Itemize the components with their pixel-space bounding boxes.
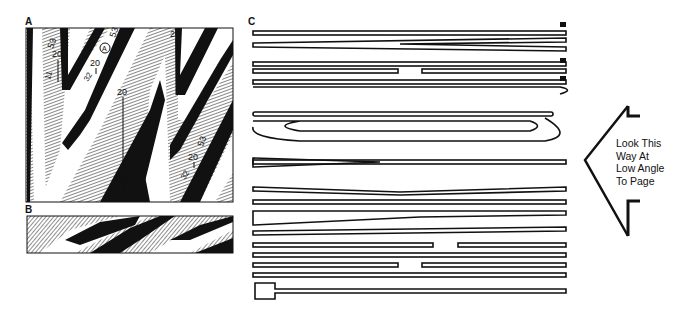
- svg-text:20: 20: [90, 58, 100, 68]
- svg-text:A: A: [102, 45, 107, 52]
- svg-text:20: 20: [188, 152, 198, 162]
- svg-text:20: 20: [170, 29, 180, 39]
- figure-canvas: 53 20 11 20 32 A 53 20 20 20 32 53: [0, 0, 685, 309]
- caption-line: Look This: [616, 137, 664, 150]
- caption-line: Low Angle: [616, 162, 664, 175]
- panel-b-label: B: [25, 204, 32, 215]
- panel-a-label: A: [25, 16, 32, 27]
- svg-text:20: 20: [117, 87, 127, 97]
- panel-c-label: C: [248, 16, 255, 27]
- panel-b-section: [27, 216, 233, 253]
- svg-text:20: 20: [52, 49, 62, 59]
- view-instruction-caption: Look This Way At Low Angle To Page: [616, 137, 664, 187]
- caption-line: Way At: [616, 150, 664, 163]
- panel-c-bars: [253, 31, 568, 299]
- chevron-top-hook-icon: [628, 106, 640, 116]
- chevron-bottom-hook-icon: [628, 201, 640, 236]
- caption-line: To Page: [616, 175, 664, 188]
